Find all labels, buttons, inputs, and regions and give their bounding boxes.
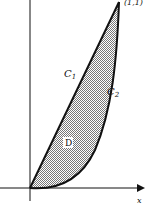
region-diagram: C1 C2 D x (1,1) xyxy=(0,0,145,212)
region-d-label: D xyxy=(65,138,72,148)
c1-label: C1 xyxy=(64,68,76,81)
corner-point-label: (1,1) xyxy=(124,0,143,7)
x-axis-label: x xyxy=(137,196,142,205)
x-axis-arrow-icon xyxy=(137,184,145,192)
